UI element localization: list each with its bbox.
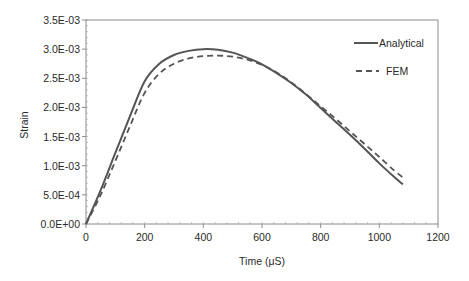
plot-area bbox=[86, 20, 438, 224]
y-tick-label: 3.0E-03 bbox=[43, 43, 80, 55]
y-tick-label: 3.5E-03 bbox=[43, 14, 80, 26]
x-tick-label: 1000 bbox=[368, 231, 392, 243]
x-axis-ticks: 020040060080010001200 bbox=[83, 224, 450, 243]
strain-time-chart: 0.0E+005.0E-041.0E-031.5E-032.0E-032.5E-… bbox=[0, 0, 469, 281]
y-tick-label: 0.0E+00 bbox=[41, 218, 81, 230]
x-tick-label: 1200 bbox=[426, 231, 450, 243]
x-tick-label: 800 bbox=[312, 231, 330, 243]
legend-analytical-label: Analytical bbox=[379, 37, 424, 49]
legend: Analytical FEM bbox=[354, 37, 424, 77]
x-tick-label: 400 bbox=[195, 231, 213, 243]
y-tick-label: 1.5E-03 bbox=[43, 131, 80, 143]
y-axis-title: Strain bbox=[18, 111, 30, 139]
x-tick-label: 0 bbox=[83, 231, 89, 243]
legend-fem-label: FEM bbox=[386, 65, 408, 77]
x-tick-label: 200 bbox=[136, 231, 154, 243]
y-tick-label: 5.0E-04 bbox=[43, 189, 80, 201]
y-axis-ticks: 0.0E+005.0E-041.0E-031.5E-032.0E-032.5E-… bbox=[41, 14, 86, 230]
y-tick-label: 2.5E-03 bbox=[43, 72, 80, 84]
x-tick-label: 600 bbox=[253, 231, 271, 243]
y-tick-label: 1.0E-03 bbox=[43, 160, 80, 172]
y-tick-label: 2.0E-03 bbox=[43, 101, 80, 113]
x-axis-title: Time (μS) bbox=[239, 255, 285, 267]
